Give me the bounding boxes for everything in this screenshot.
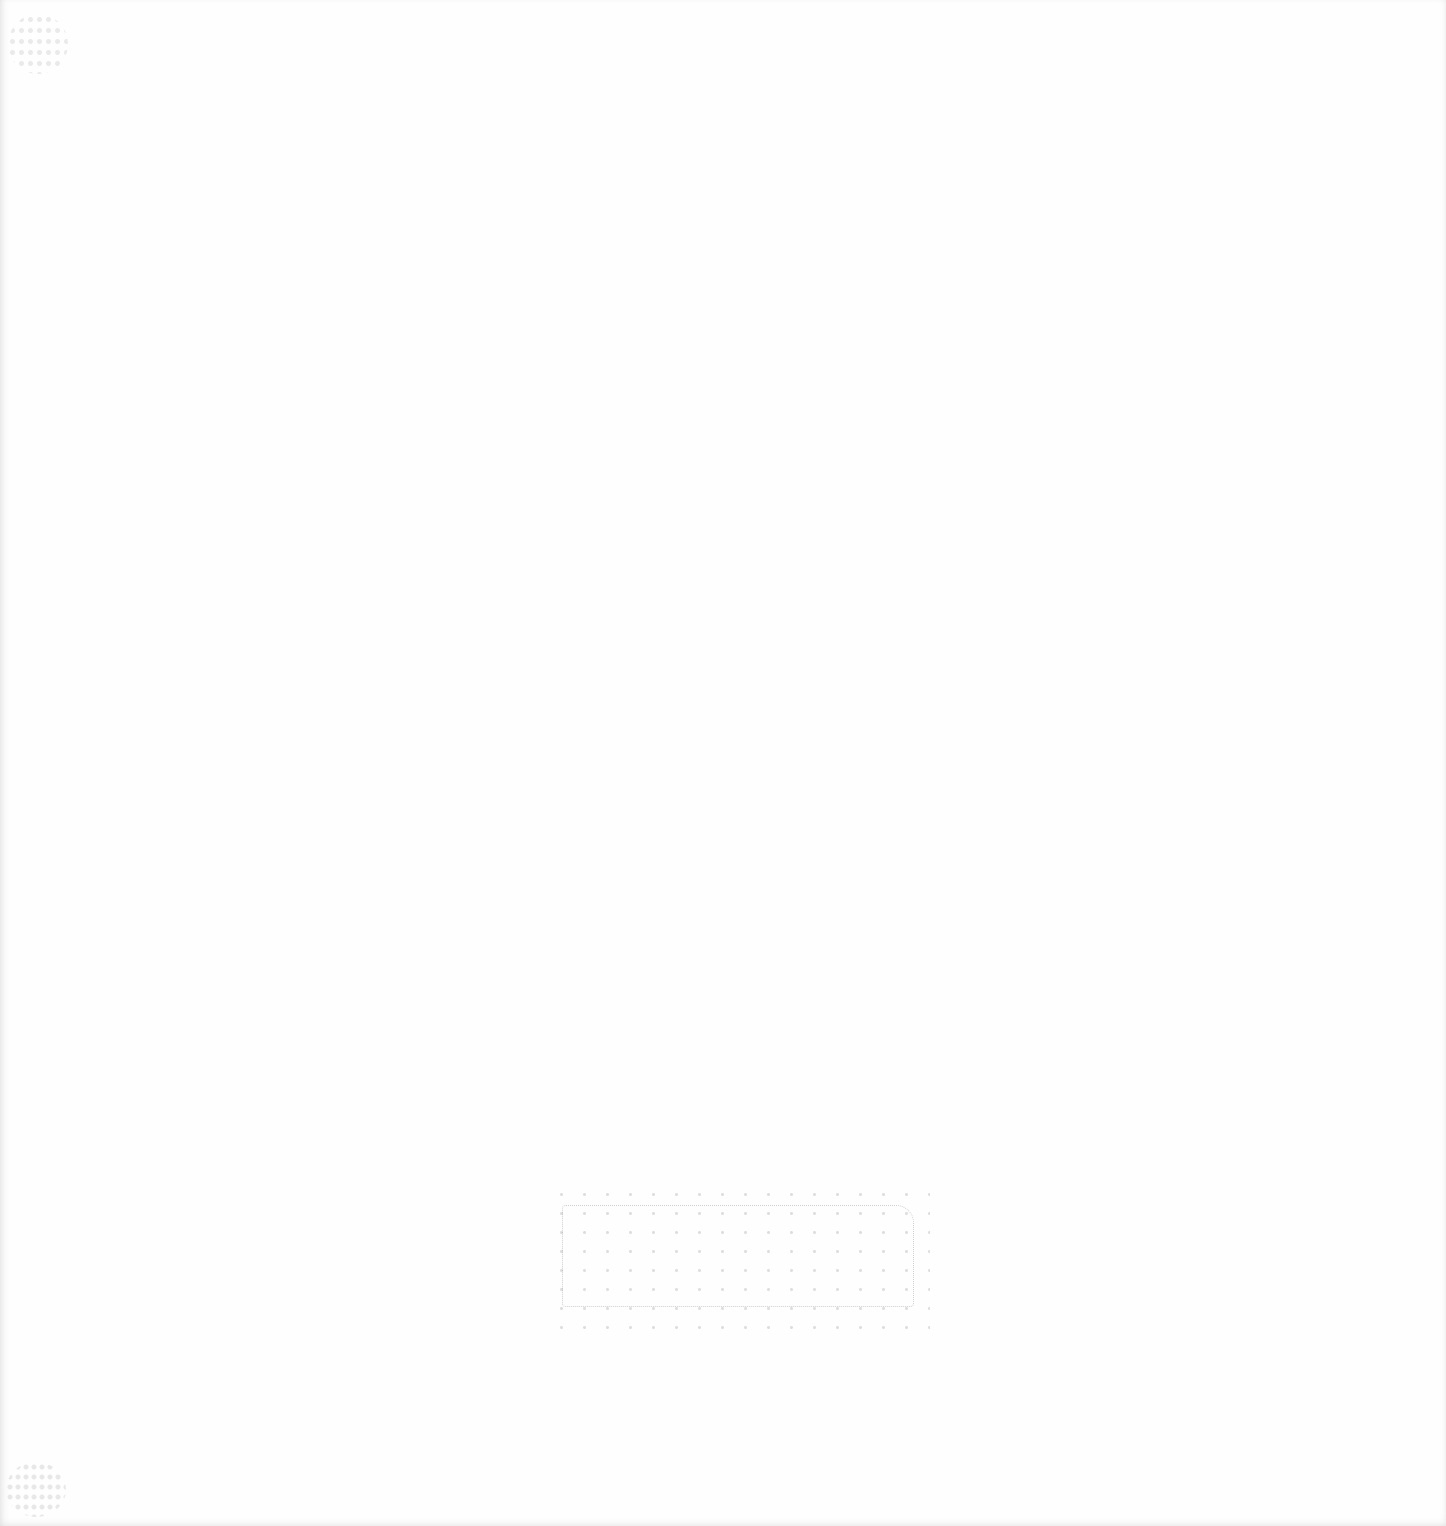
scan-noise-bottom-left [6,1462,66,1517]
scan-noise-top-left [8,14,68,74]
scanned-page [0,0,1446,1526]
stamp-speckles [550,1185,930,1335]
faded-stamp-mark [550,1185,930,1335]
